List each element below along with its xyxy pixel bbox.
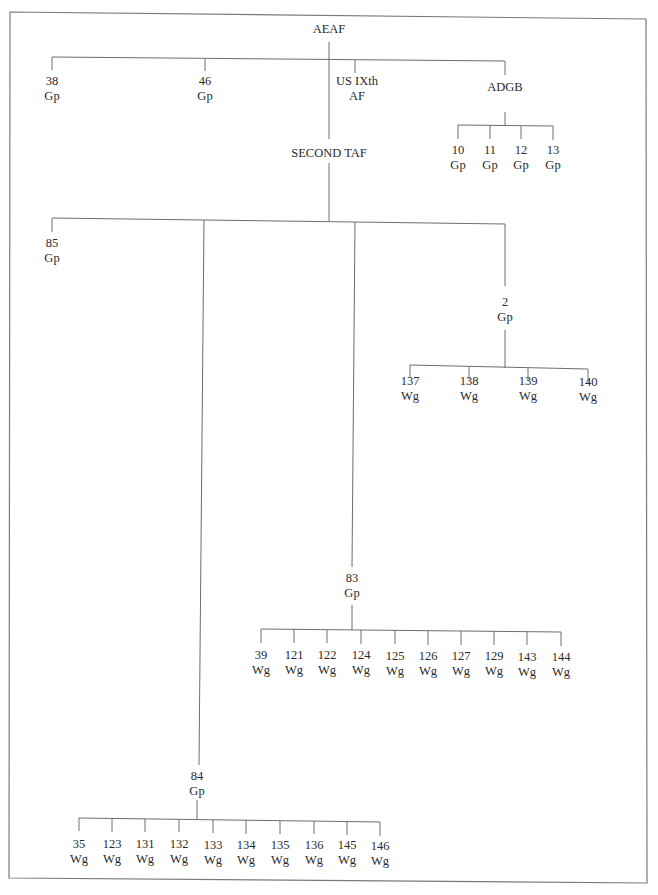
node-38-gp: 38Gp [44, 74, 59, 104]
node-label-line: AF [336, 89, 378, 104]
node-label-line: Gp [450, 158, 465, 173]
node-12-gp: 12Gp [513, 143, 528, 173]
node-label-line: Wg [401, 389, 420, 404]
node-129-wg: 129Wg [485, 649, 504, 679]
2-gp-children-bar-line [410, 365, 588, 369]
node-135-wg: 135Wg [271, 838, 290, 868]
84-gp-children-bar-line [79, 818, 380, 822]
node-13-gp: 13Gp [545, 143, 560, 173]
node-label-line: Wg [518, 665, 537, 680]
node-label-line: 12 [513, 143, 528, 158]
node-label-line: 145 [338, 838, 357, 853]
node-label-line: 123 [103, 837, 122, 852]
aeaf-children-bar-line [52, 57, 505, 61]
node-145-wg: 145Wg [338, 838, 357, 868]
node-label-line: Wg [285, 663, 304, 678]
node-144-wg: 144Wg [552, 650, 571, 680]
node-label-line: 127 [452, 649, 471, 664]
node-label-line: 35 [70, 837, 88, 852]
org-chart-canvas [0, 0, 658, 895]
node-label-line: Wg [485, 664, 504, 679]
node-label-line: 131 [136, 837, 155, 852]
node-label-line: Wg [352, 663, 371, 678]
node-label-line: Wg [103, 852, 122, 867]
node-label-line: Gp [545, 158, 560, 173]
node-label-line: Gp [497, 310, 512, 325]
node-138-wg: 138Wg [460, 374, 479, 404]
node-label-line: Wg [338, 853, 357, 868]
node-46-gp: 46Gp [197, 74, 212, 104]
node-label-line: 124 [352, 648, 371, 663]
node-label-line: 136 [305, 838, 324, 853]
node-143-wg: 143Wg [518, 650, 537, 680]
node-132-wg: 132Wg [170, 837, 189, 867]
node-134-wg: 134Wg [237, 838, 256, 868]
node-second-taf: SECOND TAF [291, 146, 367, 161]
node-label-line: 38 [44, 74, 59, 89]
node-label-line: 133 [204, 838, 223, 853]
node-127-wg: 127Wg [452, 649, 471, 679]
node-label-line: AEAF [313, 22, 346, 37]
node-label-line: 143 [518, 650, 537, 665]
node-39-wg: 39Wg [252, 648, 270, 678]
node-121-wg: 121Wg [285, 648, 304, 678]
node-aeaf: AEAF [313, 22, 346, 37]
node-label-line: Wg [519, 389, 538, 404]
node-label-line: 139 [519, 374, 538, 389]
node-131-wg: 131Wg [136, 837, 155, 867]
node-label-line: 2 [497, 295, 512, 310]
node-label-line: Gp [344, 586, 359, 601]
node-label-line: 125 [386, 649, 405, 664]
node-label-line: Wg [204, 853, 223, 868]
node-label-line: 11 [482, 143, 497, 158]
node-label-line: Gp [189, 784, 204, 799]
node-adgb: ADGB [487, 80, 522, 95]
node-122-wg: 122Wg [318, 648, 337, 678]
node-label-line: Wg [452, 664, 471, 679]
node-35-wg: 35Wg [70, 837, 88, 867]
node-133-wg: 133Wg [204, 838, 223, 868]
node-label-line: Wg [271, 853, 290, 868]
adgb-children-bar-line [458, 125, 553, 126]
node-136-wg: 136Wg [305, 838, 324, 868]
node-83-gp: 83Gp [344, 571, 359, 601]
node-label-line: Wg [386, 664, 405, 679]
node-label-line: 140 [579, 375, 598, 390]
node-139-wg: 139Wg [519, 374, 538, 404]
node-124-wg: 124Wg [352, 648, 371, 678]
node-label-line: SECOND TAF [291, 146, 367, 161]
node-146-wg: 146Wg [371, 839, 390, 869]
node-85-gp: 85Gp [44, 236, 59, 266]
node-label-line: Wg [318, 663, 337, 678]
node-label-line: Gp [44, 89, 59, 104]
node-label-line: Wg [460, 389, 479, 404]
node-125-wg: 125Wg [386, 649, 405, 679]
connector-lines [52, 42, 588, 836]
node-label-line: Gp [44, 251, 59, 266]
node-label-line: 46 [197, 74, 212, 89]
line-to-83-gp-line [352, 222, 355, 567]
node-label-line: 121 [285, 648, 304, 663]
node-123-wg: 123Wg [103, 837, 122, 867]
node-label-line: 144 [552, 650, 571, 665]
node-label-line: 13 [545, 143, 560, 158]
node-label-line: 137 [401, 374, 420, 389]
node-label-line: Gp [482, 158, 497, 173]
node-140-wg: 140Wg [579, 375, 598, 405]
node-label-line: Wg [252, 663, 270, 678]
node-11-gp: 11Gp [482, 143, 497, 173]
node-label-line: 135 [271, 838, 290, 853]
node-label-line: ADGB [487, 80, 522, 95]
node-label-line: 10 [450, 143, 465, 158]
node-label-line: 85 [44, 236, 59, 251]
node-label-line: Gp [513, 158, 528, 173]
node-84-gp: 84Gp [189, 769, 204, 799]
node-label-line: 122 [318, 648, 337, 663]
node-10-gp: 10Gp [450, 143, 465, 173]
node-label-line: Wg [136, 852, 155, 867]
node-label-line: Wg [170, 852, 189, 867]
node-label-line: 126 [419, 649, 438, 664]
node-137-wg: 137Wg [401, 374, 420, 404]
node-label-line: Wg [579, 390, 598, 405]
node-label-line: Wg [237, 853, 256, 868]
